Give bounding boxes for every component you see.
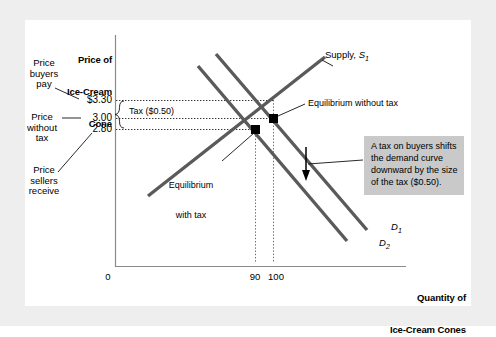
equilibrium-point-with-tax — [251, 125, 260, 134]
x-axis-title-line2: Ice-Cream Cones — [370, 325, 466, 336]
label-tax-bracket: Tax ($0.50) — [129, 106, 174, 116]
label-equilibrium-with-tax-line2: with tax — [157, 210, 225, 220]
label-equilibrium-with-tax-line1: Equilibrium — [157, 180, 225, 190]
demand-shift-arrow-head — [302, 170, 310, 181]
origin-tick-label: 0 — [101, 272, 115, 283]
label-demand-curve-d1: D1 — [391, 222, 402, 235]
d1-subscript: 1 — [398, 227, 402, 234]
supply-label-subscript: 1 — [365, 55, 369, 62]
tax-bracket-brace — [115, 101, 124, 128]
y-tick-label-sellers-receive: 2.80 — [60, 123, 112, 134]
y-tick-label-buyers-pay: $3.30 — [60, 94, 112, 105]
label-supply-curve: Supply, S1 — [325, 50, 369, 63]
leader-equilibrium-without-tax — [278, 104, 305, 116]
demand-curve-d1 — [216, 54, 367, 230]
x-tick-label-100: 100 — [262, 272, 290, 283]
label-equilibrium-with-tax: Equilibrium with tax — [157, 160, 225, 241]
callout-box: A tax on buyers shifts the demand curve … — [364, 136, 464, 195]
d1-symbol: D — [391, 221, 398, 232]
label-price-buyers-pay: Price buyers pay — [20, 58, 68, 90]
label-equilibrium-without-tax: Equilibrium without tax — [308, 98, 398, 108]
label-demand-curve-d2: D2 — [379, 238, 390, 251]
leader-callout — [308, 160, 363, 164]
x-axis-title: Quantity of Ice-Cream Cones — [370, 272, 466, 337]
label-price-without-tax: Price without tax — [18, 112, 66, 144]
leader-equilibrium-with-tax — [222, 133, 254, 161]
equilibrium-point-without-tax — [269, 114, 278, 123]
d2-symbol: D — [379, 237, 386, 248]
supply-label-text: Supply, — [325, 49, 359, 60]
y-tick-label-without-tax: 3.00 — [60, 112, 112, 123]
d2-subscript: 2 — [386, 243, 390, 250]
x-axis-title-line1: Quantity of — [370, 293, 466, 304]
label-price-sellers-receive: Price sellers receive — [20, 165, 68, 197]
